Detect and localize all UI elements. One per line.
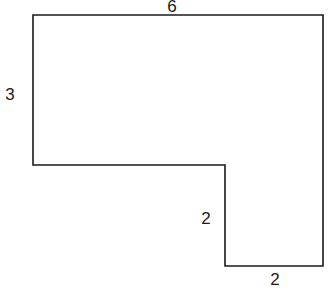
l-shape-outline [33,15,323,266]
bottom-edge-label: 2 [270,270,279,289]
left-edge-label: 3 [5,85,14,104]
l-shape-diagram: 6 3 2 2 [0,0,328,295]
top-edge-label: 6 [167,0,176,16]
inner-vertical-edge-label: 2 [201,209,210,228]
